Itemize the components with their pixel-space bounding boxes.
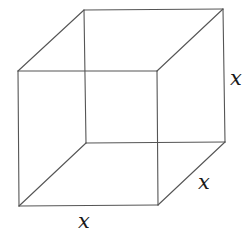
edge-front-bottom <box>19 205 158 206</box>
label-height: x <box>230 66 242 90</box>
cube-diagram: x x x <box>0 0 247 240</box>
edge-back-left <box>84 10 86 143</box>
edge-depth-top-right <box>157 9 223 71</box>
label-depth: x <box>198 170 210 194</box>
edge-depth-top-left <box>18 10 84 71</box>
edge-depth-bottom-left <box>19 143 86 206</box>
label-width: x <box>78 209 90 233</box>
edge-depth-bottom-right <box>158 142 225 205</box>
edge-front-left <box>18 71 19 206</box>
edge-front-right <box>157 71 158 205</box>
edge-back-bottom <box>86 142 225 143</box>
edge-back-right <box>223 9 225 142</box>
edge-back-top <box>84 9 223 10</box>
